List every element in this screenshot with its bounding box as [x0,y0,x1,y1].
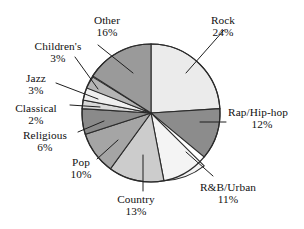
pie-chart-figure: Rock 24% Rap/Hip-hop 12% R&B/Urban 11% C… [0,0,304,229]
pie-chart-svg [0,0,304,229]
pie-slice-rock[interactable] [151,44,220,113]
pie-slices [82,44,220,182]
leader-line-rock [186,30,224,73]
